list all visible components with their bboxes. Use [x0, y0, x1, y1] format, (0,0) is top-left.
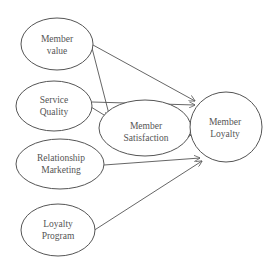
- node-member-loyalty-circle: [190, 92, 262, 162]
- conceptual-model-diagram: Member value Service Quality Relationshi…: [0, 0, 274, 262]
- node-service-quality-label-1: Service: [40, 95, 69, 105]
- node-service-quality-ellipse: [16, 81, 92, 131]
- node-loyalty-program-ellipse: [21, 204, 95, 256]
- node-service-quality-label-2: Quality: [40, 107, 69, 117]
- edge-relationship-marketing-to-member-loyalty: [104, 158, 200, 165]
- node-service-quality: Service Quality: [16, 81, 92, 131]
- node-member-satisfaction-label-1: Member: [130, 121, 163, 131]
- node-member-loyalty-label-1: Member: [209, 117, 242, 127]
- node-relationship-marketing: Relationship Marketing: [16, 139, 104, 189]
- node-member-value-label-2: value: [47, 46, 68, 56]
- node-member-satisfaction-label-2: Satisfaction: [124, 133, 169, 143]
- node-member-satisfaction: Member Satisfaction: [99, 100, 191, 156]
- node-relationship-marketing-label-1: Relationship: [37, 153, 85, 163]
- node-member-value-label-1: Member: [41, 34, 74, 44]
- node-member-loyalty-label-2: Loyalty: [210, 129, 240, 139]
- node-member-value-ellipse: [21, 18, 93, 70]
- node-relationship-marketing-ellipse: [16, 139, 104, 189]
- node-member-loyalty: Member Loyalty: [190, 92, 262, 162]
- node-relationship-marketing-label-2: Marketing: [41, 165, 81, 175]
- edge-member-value-to-member-satisfaction: [92, 48, 110, 118]
- node-loyalty-program-label-1: Loyalty: [43, 219, 73, 229]
- edge-loyalty-program-to-member-loyalty: [93, 161, 202, 231]
- node-loyalty-program: Loyalty Program: [21, 204, 95, 256]
- edge-member-value-to-member-loyalty: [93, 45, 195, 101]
- node-member-value: Member value: [21, 18, 93, 70]
- node-loyalty-program-label-2: Program: [42, 231, 75, 241]
